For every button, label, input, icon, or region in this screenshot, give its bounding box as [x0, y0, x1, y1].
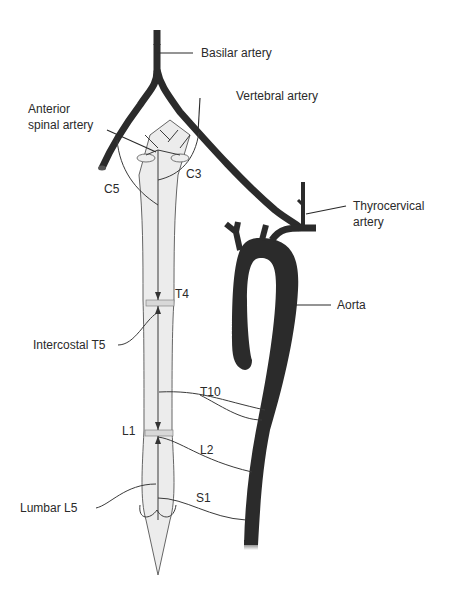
- label-anterior-spinal-artery-line2: spinal artery: [28, 118, 93, 132]
- label-s1: S1: [196, 491, 211, 505]
- label-thyrocervical-artery-line1: Thyrocervical: [353, 199, 424, 213]
- label-vertebral-artery: Vertebral artery: [236, 89, 318, 103]
- spinal-arterial-supply-diagram: Basilar artery Vertebral artery Anterior…: [0, 0, 454, 598]
- spinal-cord: [137, 120, 190, 575]
- label-t10: T10: [200, 385, 221, 399]
- basilar-vertebral-arteries: [98, 30, 302, 230]
- label-t4: T4: [175, 287, 189, 301]
- label-anterior-spinal-artery-line1: Anterior: [28, 102, 70, 116]
- label-thyrocervical-artery-line2: artery: [353, 215, 384, 229]
- label-lumbar-l5: Lumbar L5: [20, 501, 78, 515]
- label-basilar-artery: Basilar artery: [201, 46, 272, 60]
- label-aorta: Aorta: [337, 298, 366, 312]
- label-c3: C3: [186, 167, 202, 181]
- aorta: [226, 182, 316, 550]
- label-intercostal-t5: Intercostal T5: [33, 338, 106, 352]
- label-l1: L1: [122, 424, 136, 438]
- label-c5: C5: [104, 182, 120, 196]
- label-l2: L2: [200, 443, 214, 457]
